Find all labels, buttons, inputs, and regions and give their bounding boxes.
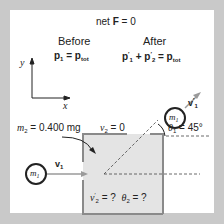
x-axis-label: x xyxy=(63,101,67,111)
after-label: After xyxy=(143,36,166,47)
before-label: Before xyxy=(58,36,90,47)
unknowns-label: v′2 = ? θ2 = ? xyxy=(90,192,147,204)
after-equation: p′1 + p′2 = ptot xyxy=(122,51,180,63)
theta1-label: θ1 = 45° xyxy=(168,123,203,134)
v2-label: v2 = 0 xyxy=(100,123,125,134)
m1-incoming-label: m1 xyxy=(30,169,40,179)
y-axis-label: y xyxy=(20,58,24,68)
v1-prime-label: v′1 xyxy=(188,97,198,109)
y-axis-arrow-icon xyxy=(30,58,34,64)
diagram-graphics xyxy=(0,0,224,224)
incoming-velocity-arrow xyxy=(47,171,88,177)
v1-label: v1 xyxy=(55,160,63,170)
m2-label: m2 = 0.400 mg xyxy=(17,123,81,134)
before-equation: p1 = ptot xyxy=(54,51,89,62)
net-force-equation: net F = 0 xyxy=(96,17,136,27)
axes xyxy=(30,58,70,100)
